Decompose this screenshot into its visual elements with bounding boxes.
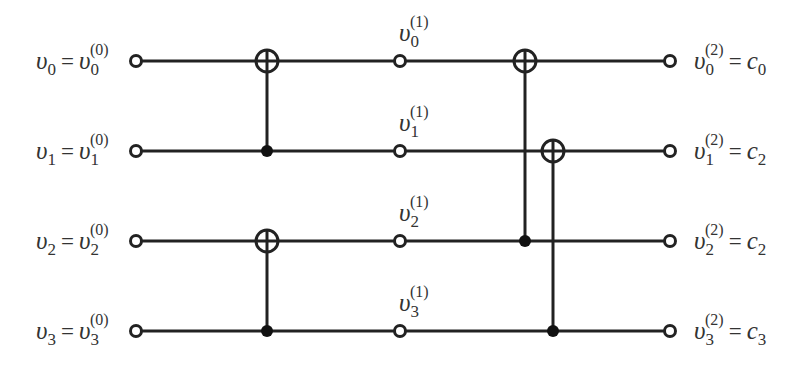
mid-label-0: υ0(1) xyxy=(399,13,429,51)
mid-node-icon xyxy=(395,326,406,337)
control-dot-icon xyxy=(261,145,273,157)
output-node-icon xyxy=(665,56,676,67)
mid-label-3: υ3(1) xyxy=(399,283,429,321)
control-dot-icon xyxy=(519,235,531,247)
mid-node-icon xyxy=(395,236,406,247)
input-node-icon xyxy=(131,146,142,157)
xor-icon xyxy=(514,50,536,72)
xor-icon xyxy=(542,140,564,162)
input-label-3: υ3=υ3(0) xyxy=(36,311,109,349)
input-node-icon xyxy=(131,326,142,337)
mid-node-icon xyxy=(395,146,406,157)
mid-node-icon xyxy=(395,56,406,67)
output-label-3: υ3(2)=c3 xyxy=(694,311,766,349)
xor-icon xyxy=(256,50,278,72)
output-label-1: υ1(2)=c2 xyxy=(694,131,766,169)
output-node-icon xyxy=(665,236,676,247)
input-label-1: υ1=υ1(0) xyxy=(36,131,109,169)
output-node-icon xyxy=(665,326,676,337)
input-node-icon xyxy=(131,56,142,67)
xor-icon xyxy=(256,230,278,252)
mid-label-1: υ1(1) xyxy=(399,103,429,141)
xor-network-diagram: υ0=υ0(0) υ1=υ1(0) υ2=υ2(0) υ3=υ3(0) υ0(1… xyxy=(0,0,811,366)
input-label-0: υ0=υ0(0) xyxy=(36,41,109,79)
output-label-0: υ0(2)=c0 xyxy=(694,41,766,79)
mid-label-2: υ2(1) xyxy=(399,193,429,231)
input-node-icon xyxy=(131,236,142,247)
output-label-2: υ2(2)=c2 xyxy=(694,221,766,259)
output-node-icon xyxy=(665,146,676,157)
input-label-2: υ2=υ2(0) xyxy=(36,221,109,259)
control-dot-icon xyxy=(261,325,273,337)
input-labels: υ0=υ0(0) υ1=υ1(0) υ2=υ2(0) υ3=υ3(0) xyxy=(36,41,109,349)
output-labels: υ0(2)=c0 υ1(2)=c2 υ2(2)=c2 υ3(2)=c3 xyxy=(694,41,766,349)
control-dot-icon xyxy=(547,325,559,337)
